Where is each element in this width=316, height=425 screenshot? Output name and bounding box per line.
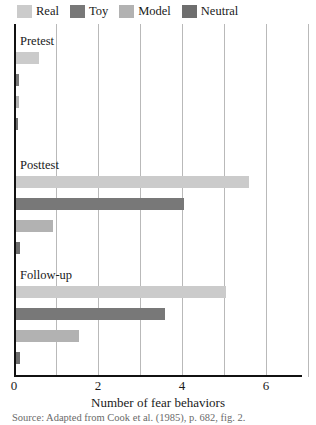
legend-entry-model: Model	[119, 5, 171, 18]
legend-entry-toy: Toy	[70, 5, 108, 18]
bar-pretest-model	[16, 96, 19, 108]
plot-frame: PretestPosttestFollow-up	[14, 24, 302, 377]
legend-label-toy: Toy	[89, 5, 108, 18]
fear-behaviors-bar-chart: Real Toy Model Neutral PretestPosttestFo…	[0, 0, 316, 425]
x-tick-label-6: 6	[263, 379, 270, 393]
legend-entry-neutral: Neutral	[182, 5, 238, 18]
bar-pretest-toy	[16, 74, 19, 86]
group-label-posttest: Posttest	[20, 159, 59, 172]
x-axis-line	[14, 375, 302, 377]
bar-follow-up-model	[16, 330, 79, 342]
gridline-7	[308, 24, 309, 377]
source-note: Source: Adapted from Cook et al. (1985),…	[12, 412, 312, 424]
legend-swatch-model	[119, 5, 134, 18]
legend-label-model: Model	[138, 5, 171, 18]
group-label-follow-up: Follow-up	[20, 269, 72, 282]
legend-entry-real: Real	[17, 5, 59, 18]
bar-pretest-real	[16, 52, 39, 64]
gridline-6	[266, 24, 267, 377]
bar-follow-up-toy	[16, 308, 165, 320]
bar-posttest-toy	[16, 198, 184, 210]
bar-posttest-neutral	[16, 242, 20, 254]
legend-label-neutral: Neutral	[201, 5, 238, 18]
x-tick-label-0: 0	[11, 379, 18, 393]
legend-swatch-neutral	[182, 5, 197, 18]
bar-follow-up-neutral	[16, 352, 20, 364]
legend-swatch-real	[17, 5, 32, 18]
bar-posttest-model	[16, 220, 53, 232]
bar-posttest-real	[16, 176, 249, 188]
plot-area: PretestPosttestFollow-up	[14, 24, 302, 377]
x-tick-label-4: 4	[179, 379, 186, 393]
legend-swatch-toy	[70, 5, 85, 18]
legend-label-real: Real	[36, 5, 59, 18]
group-label-pretest: Pretest	[20, 35, 54, 48]
x-tick-label-2: 2	[95, 379, 102, 393]
bar-pretest-neutral	[16, 118, 18, 130]
x-axis-title: Number of fear behaviors	[0, 395, 316, 410]
gridline-5	[224, 24, 225, 377]
chart-legend: Real Toy Model Neutral	[0, 0, 316, 22]
y-axis-line	[14, 24, 16, 377]
bar-follow-up-real	[16, 286, 226, 298]
